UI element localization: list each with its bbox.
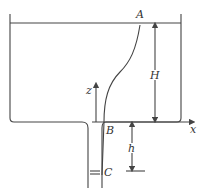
point-B-label: B [105,124,114,137]
x-axis-label: x [190,123,197,136]
h-label: h [128,142,135,155]
point-A-label: A [135,8,144,21]
tank-left-wall [10,14,88,188]
point-C-label: C [104,166,113,179]
H-label: H [149,69,160,82]
tank-right-wall [177,14,181,122]
z-axis-label: z [85,84,92,97]
tank-diagram: x z H h A B C [0,0,202,188]
